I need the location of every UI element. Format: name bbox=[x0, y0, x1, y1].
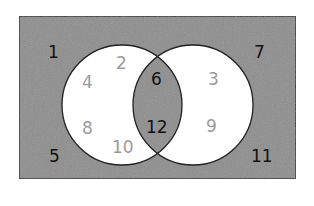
value-4: 4 bbox=[82, 72, 93, 92]
value-5: 5 bbox=[49, 146, 60, 166]
value-9: 9 bbox=[206, 116, 217, 136]
value-3: 3 bbox=[208, 69, 219, 89]
venn-diagram: 1 5 7 11 2 4 8 10 6 12 3 9 bbox=[0, 0, 314, 206]
value-10: 10 bbox=[112, 137, 134, 157]
value-1: 1 bbox=[48, 42, 59, 62]
value-8: 8 bbox=[82, 118, 93, 138]
value-12: 12 bbox=[146, 117, 168, 137]
value-6: 6 bbox=[151, 69, 162, 89]
value-2: 2 bbox=[116, 53, 127, 73]
value-7: 7 bbox=[254, 42, 265, 62]
value-11: 11 bbox=[251, 146, 273, 166]
